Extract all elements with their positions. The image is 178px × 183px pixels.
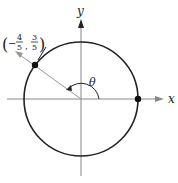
x-axis-label: x — [168, 92, 175, 106]
angle-label: θ — [89, 76, 96, 89]
svg-text:−: − — [8, 38, 16, 49]
ray-arrow-icon — [15, 51, 23, 58]
svg-text:5: 5 — [17, 43, 22, 52]
point-minus-four-fifths-three-fifths — [32, 62, 38, 68]
point-coordinate-label: ( − 4 5 , 3 5 ) — [2, 33, 45, 54]
y-axis-label: y — [76, 4, 84, 18]
x-axis-arrow-icon — [155, 96, 164, 102]
svg-text:5: 5 — [32, 43, 37, 52]
y-axis-arrow-icon — [78, 19, 84, 28]
svg-text:): ) — [39, 35, 45, 54]
svg-text:4: 4 — [17, 33, 22, 42]
angle-arc-arrow-icon — [66, 85, 72, 91]
unit-circle-diagram: x y θ ( − 4 5 , 3 5 ) — [0, 0, 178, 183]
point-one-zero — [135, 96, 141, 102]
svg-text:,: , — [25, 41, 28, 51]
svg-text:3: 3 — [32, 33, 37, 42]
